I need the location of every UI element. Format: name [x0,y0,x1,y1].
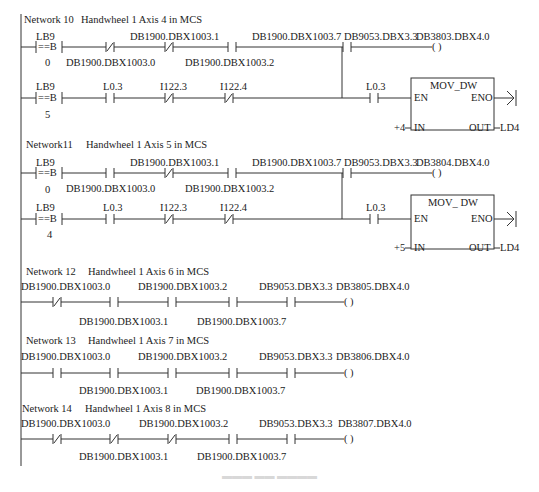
coil-symbol: ( ) [344,297,354,308]
function-box-name: MOV_DW [430,81,477,92]
compare-op: ==B [38,93,57,104]
contact-label: DB1900.DBX1003.7 [197,317,286,328]
contact-label: DB1900.DBX1003.2 [185,58,274,69]
compare-op: ==B [38,42,57,53]
coil-symbol: ( ) [432,168,442,179]
ladder-diagram: Network 10 Handwheel 1 Axis 4 in MCS LB9… [0,0,539,492]
contact-label: DB1900.DBX1003.0 [21,352,110,363]
coil-symbol: ( ) [432,42,442,53]
out-value: LD4 [500,123,519,134]
contact-label: DB1900.DBX1003.0 [21,282,110,293]
in-value: +4 [394,123,405,134]
pin-in: IN [414,243,425,254]
contact-label: DB9053.DBX3.3 [259,352,333,363]
contact-label: DB9053.DBX3.3 [344,32,418,43]
contact-label: DB1900.DBX1003.0 [21,419,110,430]
contact-label: L0.3 [366,203,386,214]
network-title: Network11 [26,140,73,151]
network-comment: Handwheel 1 Axis 4 in MCS [81,15,202,26]
contact-label: DB1900.DBX1003.0 [66,58,155,69]
network-comment: Handwheel 1 Axis 7 in MCS [88,336,209,347]
contact-label: DB1900.DBX1003.2 [138,282,227,293]
coil-symbol: ( ) [344,368,354,379]
compare-value: 0 [45,58,50,69]
contact-label: DB1900.DBX1003.0 [66,184,155,195]
compare-value: 0 [45,185,50,196]
pin-eno: ENO [471,214,493,225]
pin-out: OUT [469,243,491,254]
contact-label: L0.3 [103,203,123,214]
contact-label: DB1900.DBX1003.1 [79,317,168,328]
network-comment: Handwheel 1 Axis 8 in MCS [85,404,206,415]
compare-operand: LB9 [36,82,55,93]
contact-label: L0.3 [366,82,386,93]
contact-label: I122.4 [220,82,247,93]
function-box-name: MOV_ DW [428,198,478,209]
compare-value: 5 [45,110,50,121]
contact-label: DB1900.DBX1003.2 [139,419,228,430]
compare-op: ==B [38,214,57,225]
contact-label: DB1900.DBX1003.1 [79,386,168,397]
contact-label: DB1900.DBX1003.1 [130,32,219,43]
compare-op: ==B [38,168,57,179]
contact-label: DB9053.DBX3.3 [344,158,418,169]
contact-label: L0.3 [103,82,123,93]
contact-label: DB9053.DBX3.3 [259,419,333,430]
figure-caption: ▬▬▬ ▬▬ ▬▬▬▬ [0,470,539,481]
contact-label: DB1900.DBX1003.7 [252,158,341,169]
network-title: Network 10 [24,15,74,26]
contact-label: DB1900.DBX1003.1 [130,158,219,169]
contact-label: DB1900.DBX1003.2 [185,184,274,195]
compare-value: 4 [47,230,52,241]
network-title: Network 13 [26,336,76,347]
in-value: +5 [394,243,405,254]
contact-label: DB9053.DBX3.3 [259,282,333,293]
contact-label: I122.3 [160,82,187,93]
contact-label: DB1900.DBX1003.7 [197,452,286,463]
contact-label: I122.3 [160,203,187,214]
coil-label: DB3805.DBX4.0 [336,282,410,293]
contact-label: DB1900.DBX1003.2 [138,352,227,363]
compare-operand: LB9 [36,203,55,214]
pin-out: OUT [469,123,491,134]
pin-en: EN [414,93,428,104]
coil-label: DB3807.DBX4.0 [338,419,412,430]
network-title: Network 12 [26,267,76,278]
pin-en: EN [414,214,428,225]
network-title: Network 14 [22,404,72,415]
contact-label: DB1900.DBX1003.1 [79,452,168,463]
pin-in: IN [414,123,425,134]
pin-eno: ENO [471,93,493,104]
coil-label: DB3804.DBX4.0 [416,158,490,169]
network-comment: Handwheel 1 Axis 6 in MCS [88,267,209,278]
network-comment: Handwheel 1 Axis 5 in MCS [86,140,207,151]
contact-label: DB1900.DBX1003.7 [196,386,285,397]
contact-label: I122.4 [220,203,247,214]
contact-label: DB1900.DBX1003.7 [252,32,341,43]
coil-symbol: ( ) [344,434,354,445]
coil-label: DB3806.DBX4.0 [336,352,410,363]
coil-label: DB3803.DBX4.0 [416,32,490,43]
out-value: LD4 [500,243,519,254]
